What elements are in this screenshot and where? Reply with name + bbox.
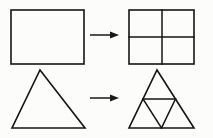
subdivided-rectangle-shape	[129, 10, 194, 64]
right-arrow-head	[110, 94, 119, 101]
triangle-row-arrow	[90, 94, 119, 101]
right-arrow-head	[110, 31, 119, 38]
rectangle-row	[11, 10, 194, 64]
shape-subdivision-diagram	[0, 0, 213, 138]
rectangle-row-arrow	[90, 31, 119, 38]
figure-canvas	[0, 0, 213, 138]
subdivided-triangle-shape	[129, 70, 194, 128]
triangle-shape	[12, 70, 85, 128]
triangle-row	[12, 70, 194, 128]
triangle-midline-right	[162, 99, 176, 128]
rectangle-shape	[11, 10, 84, 64]
triangle-midline-left	[143, 99, 162, 128]
